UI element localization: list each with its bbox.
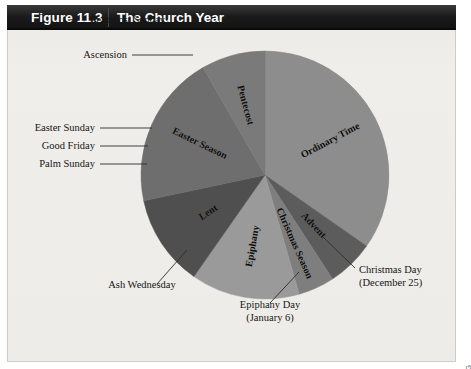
callout-easter-sunday-line1: Easter Sunday [7,122,95,135]
callout-pentecost-sunday-line1: Pentecost Sunday [7,14,165,27]
callout-epiphany-day: Epiphany Day(January 6) [195,299,345,324]
callout-palm-sunday: Palm Sunday [7,158,95,171]
callout-christmas-day: Christmas Day(December 25) [359,264,422,289]
callout-pentecost-sunday: Pentecost Sunday [7,14,165,27]
callout-epiphany-day-line1: Epiphany Day [195,299,345,312]
callout-christmas-day-line2: (December 25) [359,277,422,290]
figure-page: Figure 11.3 The Church Year Ordinary Tim… [0,0,471,369]
pie-slices [141,51,389,299]
callout-ascension: Ascension [7,49,127,62]
callout-easter-sunday: Easter Sunday [7,122,95,135]
callout-good-friday-line1: Good Friday [7,140,95,153]
image-credit: ROBERT VAN VOORST © CENGAGE LEARNING [465,365,471,369]
callout-ash-wednesday: Ash Wednesday [67,279,217,292]
callout-christmas-day-line1: Christmas Day [359,264,422,277]
callout-good-friday: Good Friday [7,140,95,153]
callout-epiphany-day-line2: (January 6) [195,312,345,325]
chart-area: Ordinary TimeAdventChristmas SeasonEpiph… [7,30,456,362]
callout-palm-sunday-line1: Palm Sunday [7,158,95,171]
callout-ascension-line1: Ascension [7,49,127,62]
callout-ash-wednesday-line1: Ash Wednesday [67,279,217,292]
